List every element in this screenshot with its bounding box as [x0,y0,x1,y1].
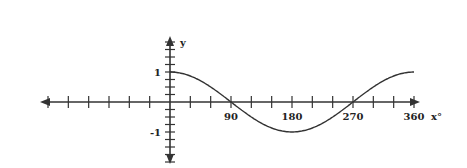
axes [40,36,420,164]
x-tick-label: 270 [343,111,364,122]
cosine-graph: 901802703601-1x°y [0,0,467,168]
x-axis-label: x° [431,111,442,122]
x-axis-right-arrow-icon [410,98,420,106]
y-tick-label: 1 [154,67,161,78]
x-tick-label: 180 [282,111,303,122]
x-tick-label: 360 [404,111,425,122]
y-tick-label: -1 [150,127,161,138]
axis-labels: 901802703601-1x°y [150,37,442,138]
y-axis-label: y [179,37,187,48]
x-tick-label: 90 [224,111,238,122]
y-axis-up-arrow-icon [166,36,174,46]
